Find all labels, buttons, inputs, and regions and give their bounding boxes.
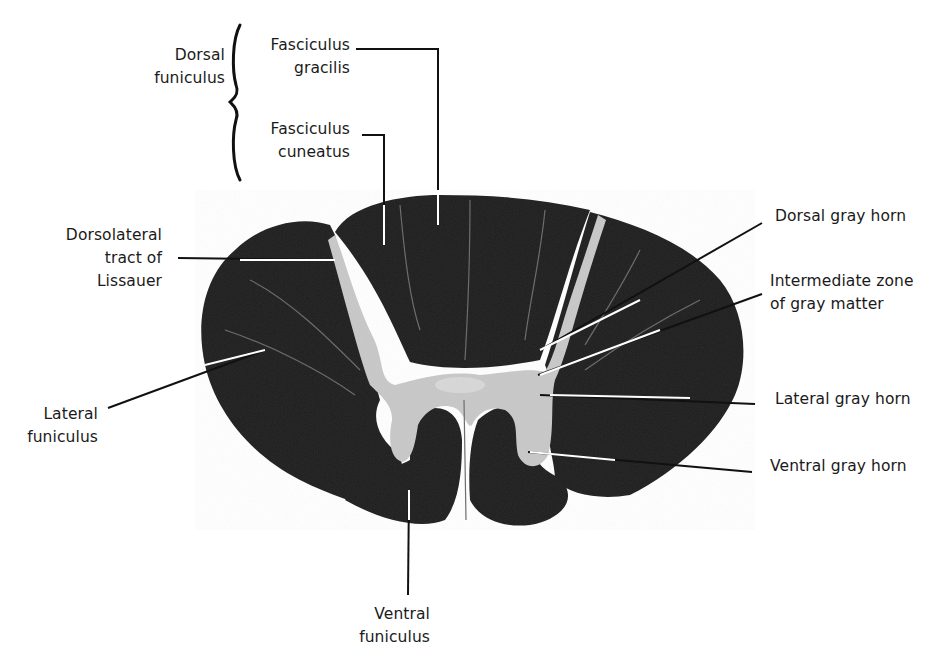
cross-section-illustration xyxy=(0,0,947,661)
label-fasciculus-cuneatus: Fasciculus cuneatus xyxy=(232,118,350,164)
label-dorsolateral-tract: Dorsolateral tract of Lissauer xyxy=(20,224,162,293)
label-lateral-gray-horn: Lateral gray horn xyxy=(775,388,945,411)
label-ventral-funiculus: Ventral funiculus xyxy=(330,603,430,649)
label-dorsal-gray-horn: Dorsal gray horn xyxy=(775,205,945,228)
spinal-cord-figure: Dorsal funiculus Fasciculus gracilis Fas… xyxy=(0,0,947,661)
label-dorsal-funiculus: Dorsal funiculus xyxy=(110,44,225,90)
label-intermediate-zone: Intermediate zone of gray matter xyxy=(770,270,947,316)
label-fasciculus-gracilis: Fasciculus gracilis xyxy=(232,34,350,80)
label-ventral-gray-horn: Ventral gray horn xyxy=(770,455,945,478)
label-lateral-funiculus: Lateral funiculus xyxy=(0,403,98,449)
